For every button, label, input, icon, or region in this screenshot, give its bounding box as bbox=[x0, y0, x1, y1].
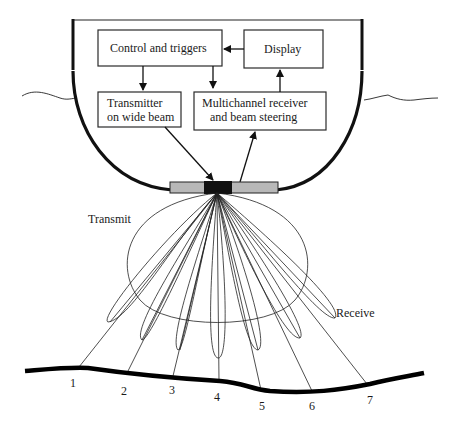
point-label-1: 1 bbox=[70, 376, 76, 390]
control-and-triggers-label: Control and triggers bbox=[110, 41, 207, 55]
receive-label: Receive bbox=[336, 306, 375, 320]
transmit-label: Transmit bbox=[88, 212, 132, 226]
water-surface-left bbox=[22, 92, 76, 99]
receiver-label-line2: and beam steering bbox=[210, 110, 297, 124]
point-label-5: 5 bbox=[259, 399, 265, 413]
point-label-7: 7 bbox=[367, 393, 373, 407]
control-and-triggers-box: Control and triggers bbox=[98, 30, 222, 66]
receiver-label-line1: Multichannel receiver bbox=[202, 96, 308, 110]
point-label-4: 4 bbox=[214, 390, 220, 404]
display-box: Display bbox=[244, 30, 323, 68]
receive-beam-lobes bbox=[107, 193, 336, 358]
point-label-6: 6 bbox=[309, 399, 315, 413]
sonar-diagram: Control and triggers Display Transmitter… bbox=[0, 0, 452, 429]
transducer-array bbox=[170, 181, 278, 194]
point-label-3: 3 bbox=[169, 383, 175, 397]
point-label-2: 2 bbox=[121, 384, 127, 398]
display-label: Display bbox=[264, 42, 301, 56]
water-surface-right bbox=[364, 95, 438, 100]
transmitter-label-line2: on wide beam bbox=[107, 110, 175, 124]
transmitter-label-line1: Transmitter bbox=[107, 96, 163, 110]
transmitter-box: Transmitter on wide beam bbox=[98, 92, 181, 127]
receiver-box: Multichannel receiver and beam steering bbox=[194, 92, 326, 130]
